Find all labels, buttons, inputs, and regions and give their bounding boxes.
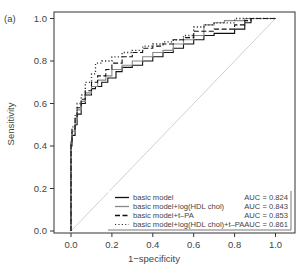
legend-auc-2: AUC = 0.843 bbox=[244, 202, 288, 211]
x-axis: 0.00.20.40.60.81.0 bbox=[64, 233, 282, 250]
legend-auc-3: AUC = 0.853 bbox=[244, 211, 288, 220]
x-tick-label: 0.2 bbox=[105, 239, 118, 250]
legend-auc-1: AUC = 0.824 bbox=[244, 193, 288, 202]
roc-chart: (a) 0.00.20.40.60.81.0 0.00.20.40.60.81.… bbox=[0, 0, 305, 279]
x-tick-label: 0.8 bbox=[228, 239, 241, 250]
y-tick-label: 0.0 bbox=[34, 225, 47, 236]
y-tick-label: 0.2 bbox=[34, 183, 47, 194]
legend-label-1: basic model bbox=[133, 193, 174, 202]
legend-label-3: basic model+t–PA bbox=[133, 211, 195, 220]
legend: basic modelAUC = 0.824basic model+log(HD… bbox=[108, 191, 292, 230]
x-tick-label: 0.0 bbox=[64, 239, 77, 250]
x-tick-label: 1.0 bbox=[269, 239, 282, 250]
y-axis: 0.00.20.40.60.81.0 bbox=[34, 13, 54, 237]
y-tick-label: 1.0 bbox=[34, 13, 47, 24]
y-tick-label: 0.6 bbox=[34, 98, 47, 109]
x-axis-title: 1−specificity bbox=[128, 253, 180, 264]
panel-label: (a) bbox=[4, 13, 16, 24]
y-axis-title: Sensitivity bbox=[5, 102, 16, 145]
y-tick-label: 0.8 bbox=[34, 55, 47, 66]
legend-label-2: basic model+log(HDL chol) bbox=[133, 202, 225, 211]
y-tick-label: 0.4 bbox=[34, 140, 47, 151]
x-tick-label: 0.4 bbox=[146, 239, 159, 250]
legend-label-4: basic model+log(HDL chol)+t–PA bbox=[133, 220, 245, 229]
x-tick-label: 0.6 bbox=[187, 239, 200, 250]
legend-auc-4: AUC = 0.861 bbox=[244, 220, 288, 229]
